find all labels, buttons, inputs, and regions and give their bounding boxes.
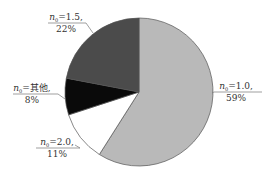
slice-percent: 59% bbox=[226, 93, 246, 103]
slice-percent: 22% bbox=[56, 24, 76, 34]
pie-chart: n0=1.0,59%n0=2.0,11%n0=其他,8%n0=1.5,22% bbox=[0, 0, 272, 179]
slice-label: n0=2.0, bbox=[40, 137, 74, 148]
slice-label: n0=1.5, bbox=[49, 12, 83, 23]
pie-slices bbox=[65, 18, 213, 166]
slice-label: n0=其他, bbox=[13, 82, 50, 94]
slice-label: n0=1.0, bbox=[219, 81, 253, 92]
slice-percent: 8% bbox=[25, 95, 40, 105]
slice-percent: 11% bbox=[47, 149, 67, 159]
